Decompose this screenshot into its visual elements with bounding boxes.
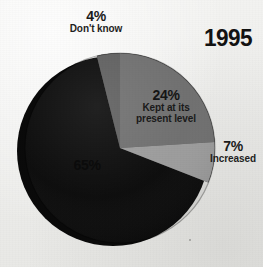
slice-label-kept: 24% Kept at its present level: [124, 88, 208, 125]
dont-know-percent: 4%: [51, 9, 141, 24]
slice-label-increased: 7% Increased: [204, 139, 262, 165]
decreased-percent: 65%: [47, 158, 127, 173]
kept-text-line2: present level: [124, 114, 208, 125]
increased-percent: 7%: [204, 139, 262, 154]
kept-percent: 24%: [124, 88, 208, 103]
year-title: 1995: [204, 24, 252, 52]
print-speck-artifact: [189, 239, 191, 241]
increased-text: Increased: [204, 154, 262, 165]
slice-label-dont-know: 4% Don't know: [51, 9, 141, 35]
decreased-text: Decreased: [47, 173, 127, 183]
dont-know-text: Don't know: [51, 24, 141, 35]
pie-chart-figure: 4% Don't know 24% Kept at its present le…: [0, 0, 263, 267]
slice-label-decreased: 65% Decreased: [47, 158, 127, 183]
